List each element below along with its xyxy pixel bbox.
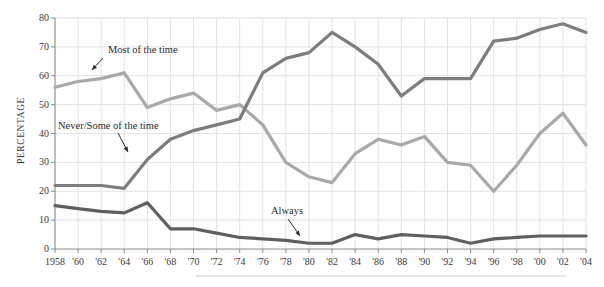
y-axis-tick-label: 80	[20, 12, 49, 23]
x-axis-tick-label: '92	[436, 256, 458, 267]
x-axis-tick-label: '64	[113, 256, 135, 267]
line-chart-plot	[0, 0, 604, 287]
annotation-arrow-head	[295, 231, 300, 236]
x-axis-tick-label: '86	[367, 256, 389, 267]
x-axis-tick-label: '78	[275, 256, 297, 267]
x-axis-tick-label: '04	[575, 256, 597, 267]
y-axis-tick-label: 60	[20, 70, 49, 81]
x-axis-tick-label: '94	[460, 256, 482, 267]
series-annotation-label: Always	[271, 205, 303, 216]
x-axis-tick-label: '98	[506, 256, 528, 267]
x-axis-tick-label: '62	[90, 256, 112, 267]
y-axis-tick-label: 20	[20, 185, 49, 196]
x-axis-tick-label: '74	[229, 256, 251, 267]
y-axis-tick-label: 0	[20, 243, 49, 254]
y-axis-tick-label: 50	[20, 99, 49, 110]
y-axis-tick-label: 30	[20, 156, 49, 167]
x-axis-tick-label: '82	[321, 256, 343, 267]
y-axis-tick-label: 10	[20, 214, 49, 225]
x-axis-tick-label: '00	[529, 256, 551, 267]
series-line	[55, 203, 586, 243]
x-axis-tick-label: '88	[390, 256, 412, 267]
x-axis-tick-label: 1958	[44, 256, 66, 267]
series-annotation-label: Never/Some of the time	[58, 120, 159, 131]
x-axis-tick-label: '90	[413, 256, 435, 267]
y-axis-tick-label: 70	[20, 41, 49, 52]
x-axis-tick-label: '72	[206, 256, 228, 267]
series-annotation-label: Most of the time	[108, 44, 178, 55]
chart-container: PERCENTAGE 010203040506070801958'60'62'6…	[0, 0, 604, 287]
x-axis-tick-label: '80	[298, 256, 320, 267]
x-axis-tick-label: '96	[483, 256, 505, 267]
x-axis-tick-label: '02	[552, 256, 574, 267]
x-axis-tick-label: '76	[252, 256, 274, 267]
x-axis-tick-label: '60	[67, 256, 89, 267]
x-axis-tick-label: '84	[344, 256, 366, 267]
x-axis-tick-label: '68	[159, 256, 181, 267]
x-axis-tick-label: '66	[136, 256, 158, 267]
x-axis-tick-label: '70	[183, 256, 205, 267]
y-axis-tick-label: 40	[20, 128, 49, 139]
